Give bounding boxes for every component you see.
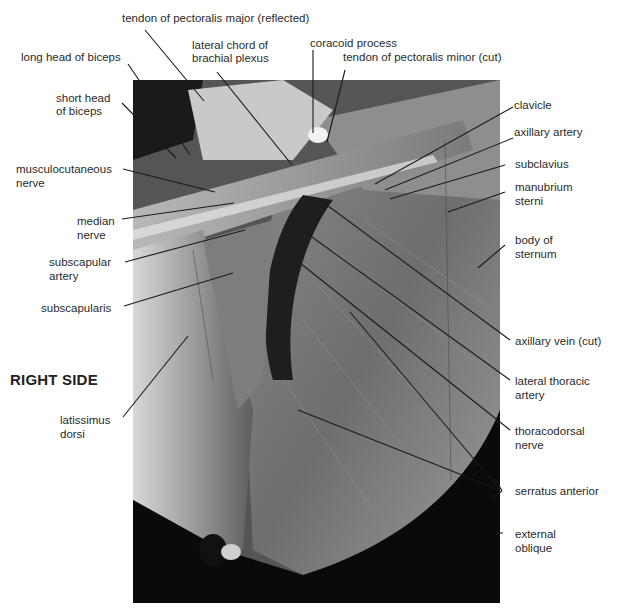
side-label: RIGHT SIDE — [10, 371, 98, 388]
label-subscapular-artery-line1: subscapular — [49, 255, 111, 269]
label-axillary-vein: axillary vein (cut) — [515, 334, 601, 348]
label-median-nerve-line2: nerve — [77, 228, 106, 242]
label-lateral-thoracic-line2: artery — [515, 388, 544, 402]
label-thoracodorsal-line1: thoracodorsal — [515, 424, 585, 438]
label-short-head-line1: short head — [56, 91, 110, 105]
label-external-oblique-line1: external — [515, 527, 556, 541]
label-tendon-pectoralis-major: tendon of pectoralis major (reflected) — [122, 11, 309, 25]
photo-illustration — [133, 80, 500, 603]
label-thoracodorsal-line2: nerve — [515, 438, 544, 452]
label-latissimus-line1: latissimus — [60, 413, 110, 427]
label-short-head-line2: of biceps — [56, 104, 102, 118]
label-coracoid-process: coracoid process — [310, 36, 397, 50]
label-lateral-chord-line1: lateral chord of — [192, 38, 268, 52]
label-lateral-chord-line2: brachial plexus — [192, 51, 269, 65]
label-lateral-thoracic-line1: lateral thoracic — [515, 374, 590, 388]
label-manubrium-line1: manubrium — [515, 180, 573, 194]
label-clavicle: clavicle — [514, 98, 552, 112]
label-manubrium-line2: sterni — [515, 194, 543, 208]
label-musculocutaneous-line1: musculocutaneous — [16, 162, 112, 176]
label-axillary-artery: axillary artery — [514, 125, 582, 139]
label-subscapularis: subscapularis — [41, 301, 111, 315]
label-serratus-anterior: serratus anterior — [515, 484, 599, 498]
label-body-sternum-line1: body of — [515, 233, 553, 247]
label-long-head-biceps: long head of biceps — [21, 50, 121, 64]
label-body-sternum-line2: sternum — [515, 247, 557, 261]
label-subscapular-artery-line2: artery — [49, 269, 78, 283]
dissection-photo — [133, 80, 500, 603]
label-latissimus-line2: dorsi — [60, 427, 85, 441]
label-tendon-pectoralis-minor: tendon of pectoralis minor (cut) — [343, 50, 502, 64]
label-subclavius: subclavius — [515, 157, 569, 171]
label-external-oblique-line2: oblique — [515, 541, 552, 555]
label-musculocutaneous-line2: nerve — [16, 176, 45, 190]
label-median-nerve-line1: median — [77, 214, 115, 228]
